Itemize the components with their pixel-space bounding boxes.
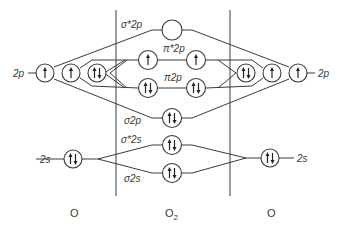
pi-2p-orbital-b	[187, 79, 206, 98]
left-2p-label: 2p	[12, 68, 25, 79]
sigma-star-2p-label: σ*2p	[121, 19, 142, 30]
sigma-2s-label: σ2s	[124, 173, 141, 184]
left-atom-label: O	[70, 207, 79, 219]
pi-star-2p-orbital-a	[139, 51, 158, 70]
right-2s-label: 2s	[296, 153, 308, 164]
pi-star-2p-orbital-b	[187, 51, 206, 70]
pi-star-2p-label: π*2p	[163, 43, 185, 54]
left-2p-orbital-1	[36, 64, 54, 82]
sigma-2p-label: σ2p	[124, 115, 142, 126]
left-2p-orbital-2	[62, 64, 80, 82]
sigma-star-2s-orbital	[163, 136, 182, 155]
mo-diagram: 2p 2p 2s 2s σ*2p π*2p π2p σ2p σ*2s σ2s O…	[0, 0, 339, 230]
molecule-label: O2	[165, 207, 179, 222]
sigma-2p-orbital	[163, 109, 182, 128]
left-2s-orbital	[64, 150, 82, 168]
left-2p-orbital-3	[88, 64, 106, 82]
sigma-star-2p-orbital	[162, 20, 182, 40]
right-atom-label: O	[267, 207, 276, 219]
right-2p-orbital-1	[237, 64, 255, 82]
right-2p-label: 2p	[317, 68, 330, 79]
right-2s-orbital	[261, 149, 279, 167]
pi-2p-orbital-a	[139, 79, 158, 98]
right-2p-orbital-2	[263, 64, 281, 82]
pi-2p-label: π2p	[164, 72, 182, 83]
left-2s-label: 2s	[39, 154, 51, 165]
sigma-2s-orbital	[163, 164, 182, 183]
sigma-star-2s-label: σ*2s	[121, 134, 141, 145]
right-2p-orbital-3	[289, 64, 307, 82]
